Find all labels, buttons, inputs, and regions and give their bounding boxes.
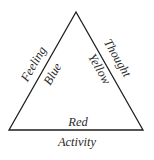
triangle-diagram: Feeling Blue Thought Yellow Red Activity	[0, 0, 154, 160]
bottom-side-inner-label: Red	[67, 115, 88, 129]
left-side-inner-label: Blue	[41, 60, 65, 87]
bottom-side-outer-label: Activity	[57, 135, 97, 149]
